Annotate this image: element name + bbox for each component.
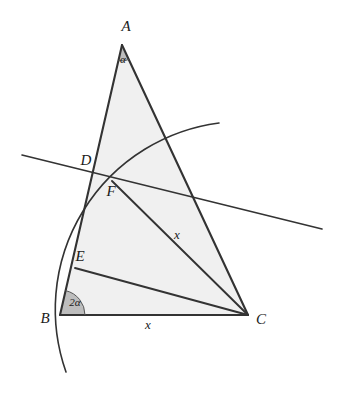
triangle-abc-fill (60, 45, 248, 315)
geometry-figure: A B C D E F α 2α x x (0, 0, 340, 394)
vertex-label-b: B (40, 310, 49, 326)
geometry-canvas: A B C D E F α 2α x x (0, 0, 340, 394)
point-label-e: E (74, 248, 84, 264)
length-label-fc: x (173, 227, 180, 242)
length-label-bc: x (144, 317, 151, 332)
vertex-label-c: C (256, 311, 267, 327)
vertex-label-a: A (120, 18, 131, 34)
angle-label-alpha: α (120, 53, 126, 65)
point-label-f: F (105, 183, 116, 199)
point-label-d: D (80, 152, 92, 168)
angle-label-two-alpha: 2α (69, 296, 81, 308)
